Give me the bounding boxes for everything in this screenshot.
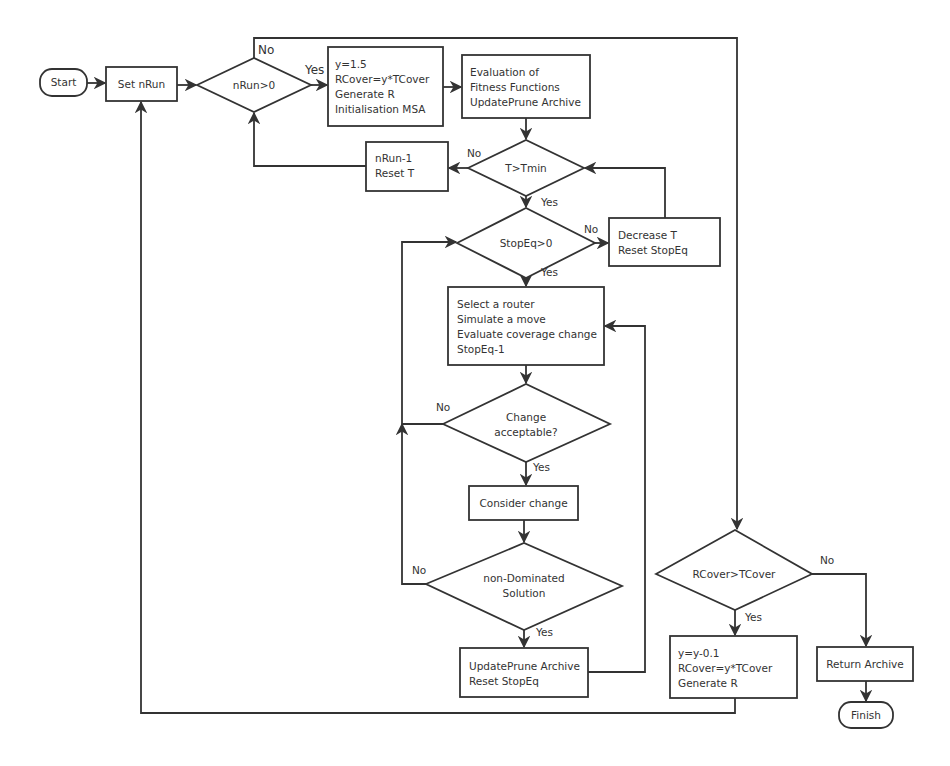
nrun-decision-label: nRun>0 [233,79,275,91]
select-router-line-1: Select a router [457,298,535,310]
decrease-t-line-2: Reset StopEq [618,244,688,256]
update-prune-line-2: Reset StopEq [469,675,539,687]
edge-updateprune-to-select [588,326,645,672]
acceptable-no-label: No [436,401,450,413]
select-router-line-3: Evaluate coverage change [457,328,597,340]
flowchart: Start Set nRun nRun>0 No Yes y=1.5 RCove… [0,0,950,766]
select-router-line-4: StopEq-1 [457,343,505,355]
set-nrun-box: Set nRun [106,67,177,101]
nrun-no-label: No [258,43,274,57]
tmin-yes-label: Yes [540,196,558,208]
nrun-yes-label: Yes [304,63,324,77]
nrun-decrement-line-1: nRun-1 [375,152,412,164]
rcover-decision: RCover>TCover [656,530,812,610]
change-acceptable-line-1: Change [506,411,546,423]
change-acceptable-line-2: acceptable? [494,426,557,438]
stopeq-yes-label: Yes [540,266,558,278]
nondominated-no-label: No [412,564,426,576]
consider-change-box: Consider change [469,486,578,520]
consider-change-label: Consider change [479,497,567,509]
change-acceptable-decision: Change acceptable? [443,384,610,462]
update-prune-line-1: UpdatePrune Archive [469,660,580,672]
start-label: Start [51,76,77,88]
tmin-no-label: No [467,147,481,159]
init-line-1: y=1.5 [335,58,367,70]
update-prune-box: UpdatePrune Archive Reset StopEq [460,648,588,697]
init-line-2: RCover=y*TCover [335,73,430,85]
stopeq-no-label: No [584,223,598,235]
stopeq-decision-label: StopEq>0 [500,237,553,249]
evaluation-line-3: UpdatePrune Archive [470,96,581,108]
nrun-decrement-box: nRun-1 Reset T [366,142,448,191]
edge-nondominated-no-to-stopeq [402,424,426,584]
decrease-t-line-1: Decrease T [618,229,678,241]
init-line-3: Generate R [335,88,395,100]
finish-terminal: Finish [839,702,893,728]
non-dominated-decision: non-Dominated Solution [426,543,622,630]
tmin-decision: T>Tmin [468,140,584,196]
return-archive-box: Return Archive [817,647,913,681]
non-dominated-line-2: Solution [503,587,546,599]
edge-rcover-no-to-return [812,574,866,646]
init-line-4: Initialisation MSA [335,103,426,115]
init-box: y=1.5 RCover=y*TCover Generate R Initial… [328,47,443,126]
y-decrement-line-3: Generate R [678,677,738,689]
select-router-line-2: Simulate a move [457,313,546,325]
stopeq-decision: StopEq>0 [457,208,595,278]
select-router-box: Select a router Simulate a move Evaluate… [448,287,604,365]
y-decrement-line-2: RCover=y*TCover [678,662,773,674]
rcover-yes-label: Yes [744,611,762,623]
start-terminal: Start [40,69,87,96]
set-nrun-label: Set nRun [118,78,165,90]
nrun-decision: nRun>0 [197,58,311,112]
decrease-t-box: Decrease T Reset StopEq [609,218,720,266]
tmin-decision-label: T>Tmin [504,162,546,174]
evaluation-box: Evaluation of Fitness Functions UpdatePr… [462,55,590,118]
non-dominated-line-1: non-Dominated [483,572,565,584]
finish-label: Finish [851,709,881,721]
y-decrement-line-1: y=y-0.1 [678,647,720,659]
acceptable-yes-label: Yes [532,461,550,473]
rcover-no-label: No [820,554,834,566]
evaluation-line-1: Evaluation of [470,66,539,78]
edge-decreaset-to-tmin [585,168,665,218]
nondominated-yes-label: Yes [535,626,553,638]
evaluation-line-2: Fitness Functions [470,81,560,93]
rcover-decision-label: RCover>TCover [693,568,777,580]
nrun-decrement-line-2: Reset T [375,167,415,179]
return-archive-label: Return Archive [826,658,903,670]
y-decrement-box: y=y-0.1 RCover=y*TCover Generate R [670,636,797,698]
